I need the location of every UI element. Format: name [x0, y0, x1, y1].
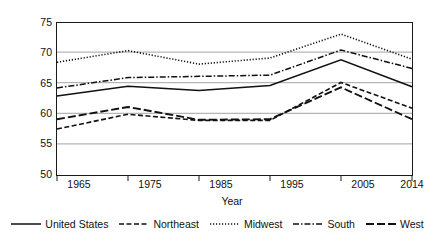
- plot-frame: [57, 23, 413, 176]
- x-tick-label: 1985: [199, 178, 243, 190]
- x-tick-label: 2014: [390, 178, 434, 190]
- homeownership-rate-chart: Homeownership rate (%) 75 70 65 60 55 50: [0, 0, 435, 243]
- legend-swatch-dashed-icon: [119, 219, 149, 229]
- x-tick-label: 2005: [341, 178, 385, 190]
- legend-item-west[interactable]: West: [366, 218, 424, 230]
- legend-swatch-long-dash-icon: [366, 219, 396, 229]
- series-line-united-states: [57, 60, 412, 96]
- series-line-south: [57, 50, 412, 88]
- series-line-northeast: [57, 82, 412, 129]
- legend-label: South: [327, 218, 354, 230]
- legend-label: Midwest: [244, 218, 283, 230]
- data-series-layer: [57, 34, 412, 129]
- legend-swatch-solid-icon: [11, 219, 41, 229]
- legend-item-south[interactable]: South: [293, 218, 354, 230]
- legend-label: United States: [45, 218, 108, 230]
- legend-label: Northeast: [153, 218, 199, 230]
- series-line-midwest: [57, 34, 412, 64]
- x-axis-tick-labels: 1965 1975 1985 1995 2005 2014: [0, 178, 435, 194]
- legend-item-northeast[interactable]: Northeast: [119, 218, 199, 230]
- legend-item-midwest[interactable]: Midwest: [210, 218, 283, 230]
- legend-item-united-states[interactable]: United States: [11, 218, 108, 230]
- chart-legend: United StatesNortheastMidwestSouthWest: [0, 213, 435, 235]
- x-axis-label: Year: [52, 195, 412, 207]
- legend-swatch-dash-dot-icon: [293, 219, 323, 229]
- x-tick-label: 1965: [57, 178, 101, 190]
- legend-label: West: [400, 218, 424, 230]
- x-tick-label: 1995: [270, 178, 314, 190]
- series-line-west: [57, 87, 412, 119]
- x-tick-label: 1975: [128, 178, 172, 190]
- legend-swatch-dotted-icon: [210, 219, 240, 229]
